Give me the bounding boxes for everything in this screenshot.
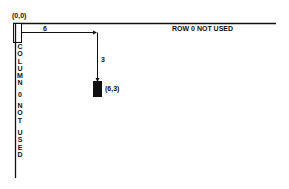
column-label-letter: D	[16, 151, 24, 158]
column-label: C O L U M N 0 N O T U S E D	[16, 43, 24, 158]
row-label: ROW 0 NOT USED	[172, 25, 233, 32]
column-label-letter: U	[16, 65, 24, 72]
column-label-letter: E	[16, 144, 24, 151]
horizontal-offset-label: 6	[43, 25, 47, 32]
column-label-letter: O	[16, 109, 24, 116]
column-label-letter: S	[16, 136, 24, 143]
target-cell-label: (6,3)	[105, 85, 119, 92]
column-label-letter: L	[16, 58, 24, 65]
column-label-letter: T	[16, 117, 24, 124]
column-label-letter: U	[16, 129, 24, 136]
vertical-offset-label: 3	[101, 56, 105, 63]
column-label-letter: N	[16, 102, 24, 109]
arrowhead-right-icon	[93, 31, 97, 35]
column-label-letter: O	[16, 50, 24, 57]
target-cell	[93, 81, 102, 97]
origin-cell	[14, 24, 22, 43]
column-label-letter: M	[16, 72, 24, 79]
origin-label: (0,0)	[12, 12, 26, 19]
column-label-letter: C	[16, 43, 24, 50]
column-label-letter: 0	[16, 91, 24, 98]
column-label-letter: N	[16, 79, 24, 86]
